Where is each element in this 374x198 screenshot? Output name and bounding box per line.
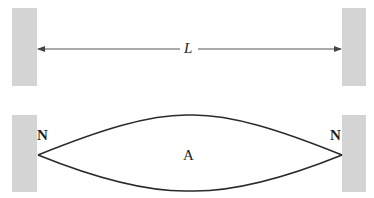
length-label: L bbox=[184, 41, 192, 56]
bottom-right-wall bbox=[342, 115, 366, 192]
top-left-wall bbox=[12, 8, 37, 86]
right-node-label: N bbox=[330, 128, 341, 143]
diagram-graphics bbox=[0, 0, 374, 198]
left-node-label: N bbox=[37, 128, 48, 143]
standing-wave-diagram: L N N A bbox=[0, 0, 374, 198]
antinode-label: A bbox=[183, 148, 194, 163]
top-right-wall bbox=[342, 8, 366, 86]
bottom-left-wall bbox=[12, 115, 37, 192]
